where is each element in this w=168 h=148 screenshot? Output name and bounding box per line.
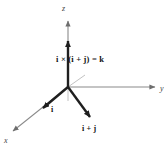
guide-ray-diagonal <box>68 75 85 87</box>
cross-product-equation-label: i × (i + j) = k <box>56 55 104 64</box>
y-axis-label: y <box>160 85 164 93</box>
x-axis-label: x <box>4 137 8 145</box>
vector-i-plus-j <box>68 87 90 117</box>
vector-i-plus-j-label: i + j <box>82 125 96 133</box>
z-axis-label: z <box>62 5 65 13</box>
vector-diagram-figure: z y x i i + j i × (i + j) = k <box>0 0 168 148</box>
vector-i-label: i <box>51 106 53 114</box>
vector-i <box>43 87 68 108</box>
